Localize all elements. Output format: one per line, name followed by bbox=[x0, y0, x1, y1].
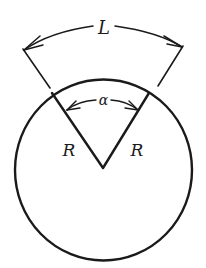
arc-length-dimension-left bbox=[24, 26, 93, 50]
arrowhead-left-icon bbox=[24, 36, 43, 50]
sector-diagram: L α R R bbox=[0, 0, 206, 268]
extension-line-left bbox=[23, 49, 50, 88]
extension-line-right bbox=[158, 46, 183, 86]
arc-length-dimension-right bbox=[115, 26, 182, 47]
arrowhead-right-icon bbox=[164, 36, 182, 47]
radius-left-label: R bbox=[62, 140, 76, 160]
angle-label: α bbox=[99, 92, 109, 108]
arc-length-label: L bbox=[97, 17, 110, 38]
radius-right-label: R bbox=[130, 140, 144, 160]
